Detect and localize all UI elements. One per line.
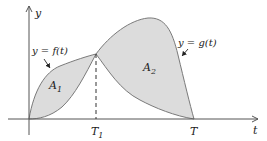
a2-sub: 2: [150, 67, 156, 76]
area-between-curves-diagram: y t y = f(t) y = g(t) A1 A2 T1 T: [0, 0, 267, 141]
f-label-arrow: [44, 59, 50, 68]
y-axis-label: y: [34, 7, 42, 20]
a1-sub: 1: [57, 85, 62, 94]
region-a1: [29, 54, 96, 119]
a2-main: A: [142, 61, 151, 74]
t1-tick-label: T1: [91, 125, 103, 140]
g-curve-label: y = g(t): [177, 37, 217, 48]
f-curve-label: y = f(t): [31, 45, 68, 56]
t1-sub: 1: [98, 131, 103, 140]
x-axis-label: t: [253, 124, 258, 137]
a1-main: A: [48, 79, 57, 92]
g-label-arrow: [182, 49, 188, 56]
t-tick-label: T: [190, 125, 199, 138]
